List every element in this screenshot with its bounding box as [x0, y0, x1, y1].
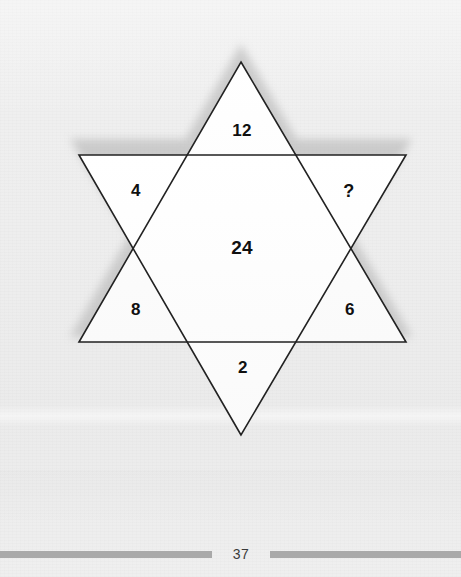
cell-value-top: 12: [232, 122, 252, 139]
footer-rule-right: [270, 551, 461, 558]
cell-value-upper-left: 4: [131, 182, 141, 199]
cell-value-bottom: 2: [238, 359, 248, 376]
footer-rule-left: [0, 551, 212, 558]
star-figure: 12 4 ? 24 8 6 2: [0, 0, 461, 500]
cell-value-lower-right: 6: [345, 301, 355, 318]
cell-value-lower-left: 8: [131, 301, 141, 318]
page-footer: 37: [0, 529, 461, 577]
cell-value-center: 24: [231, 238, 253, 257]
cell-value-upper-right: ?: [343, 182, 354, 200]
page-number: 37: [233, 546, 249, 562]
